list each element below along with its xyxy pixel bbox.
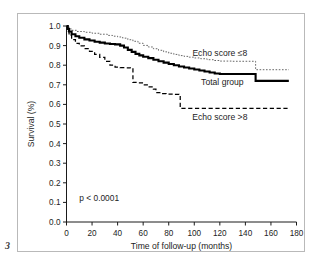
x-tick-label: 40 [113,229,123,238]
y-tick-label: 0.0 [49,218,61,227]
y-tick-label: 0.8 [49,61,61,70]
x-tick-label: 20 [88,229,98,238]
y-tick-label: 0.1 [49,198,61,207]
series-curve [67,26,289,81]
y-axis-title: Survival (%) [26,101,36,147]
x-tick-label: 120 [213,229,227,238]
y-tick-label: 1.0 [49,22,61,31]
y-tick-label: 0.5 [49,120,61,129]
figure-container: 3 0.00.10.20.30.40.50.60.70.80.91.002040… [0,0,322,269]
y-tick-label: 0.4 [49,140,61,149]
x-tick-label: 100 [187,229,201,238]
y-tick-label: 0.6 [49,100,61,109]
y-tick-label: 0.7 [49,81,61,90]
series-label: Total group [201,77,244,87]
p-value-annotation: p < 0.0001 [79,193,119,203]
series-label: Echo score ≤8 [192,48,247,58]
x-tick-label: 180 [290,229,304,238]
x-axis-title: Time of follow-up (months) [131,241,233,251]
y-tick-label: 0.2 [49,179,61,188]
y-tick-label: 0.3 [49,159,61,168]
x-tick-label: 0 [64,229,69,238]
survival-chart: 0.00.10.20.30.40.50.60.70.80.91.00204060… [0,0,322,269]
series-label: Echo score >8 [192,112,247,122]
x-tick-label: 80 [164,229,174,238]
x-tick-label: 60 [139,229,149,238]
series-curve [67,26,289,70]
series-curve [67,26,289,108]
x-tick-label: 160 [264,229,278,238]
x-tick-label: 140 [239,229,253,238]
y-tick-label: 0.9 [49,42,61,51]
